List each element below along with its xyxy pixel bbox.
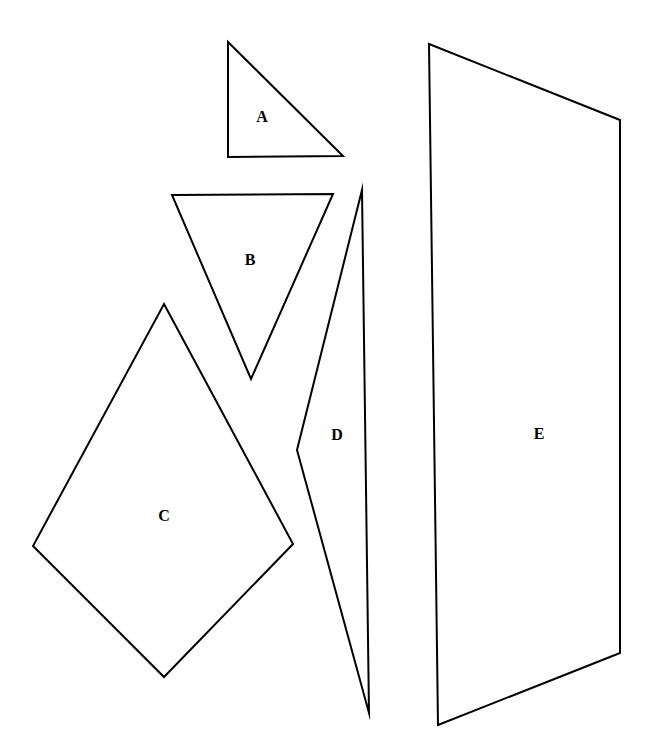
shape-d-label: D [331, 426, 343, 443]
shape-e-label: E [534, 425, 545, 442]
shape-e-outline[interactable] [429, 44, 620, 725]
shape-a-label: A [256, 108, 268, 125]
shape-b-label: B [245, 251, 256, 268]
geometry-figure-canvas: A B C D E [0, 0, 658, 751]
shape-c-label: C [158, 507, 170, 524]
shape-group-e: E [429, 44, 620, 725]
